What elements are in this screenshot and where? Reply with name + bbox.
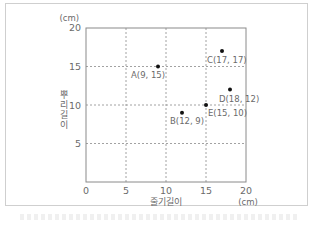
y-tick-10: 10	[69, 100, 81, 111]
point-a-label: A(9, 15)	[131, 70, 165, 80]
x-tick-15: 15	[200, 185, 212, 196]
y-axis-label: 뿌 리 길 이	[60, 90, 68, 130]
point-c-label: C(17, 17)	[207, 55, 247, 65]
x-tick-20: 20	[240, 185, 252, 196]
x-tick-5: 5	[123, 185, 129, 196]
x-unit: (cm)	[238, 197, 258, 207]
y-tick-5: 5	[75, 138, 81, 149]
point-e-label: E(15, 10)	[208, 108, 247, 118]
svg-text:이: 이	[60, 120, 68, 130]
x-tick-0: 0	[83, 185, 89, 196]
point-d	[228, 88, 232, 92]
y-tick-20: 20	[69, 22, 81, 33]
point-c	[220, 49, 224, 53]
point-e	[204, 103, 208, 107]
svg-text:길: 길	[60, 110, 68, 120]
scatter-chart: (cm) 20 15 10 5 뿌 리 길 이 0 5 10 15 20 줄기길…	[0, 0, 316, 225]
point-a	[156, 65, 160, 69]
point-b-label: B(12, 9)	[170, 116, 204, 126]
faint-caption-line	[20, 214, 300, 220]
point-b	[180, 111, 184, 115]
x-axis-label: 줄기길이	[150, 197, 182, 207]
y-tick-15: 15	[69, 61, 81, 72]
svg-text:뿌: 뿌	[60, 90, 68, 100]
svg-text:리: 리	[60, 100, 68, 110]
point-d-label: D(18, 12)	[219, 94, 259, 104]
x-tick-10: 10	[160, 185, 172, 196]
